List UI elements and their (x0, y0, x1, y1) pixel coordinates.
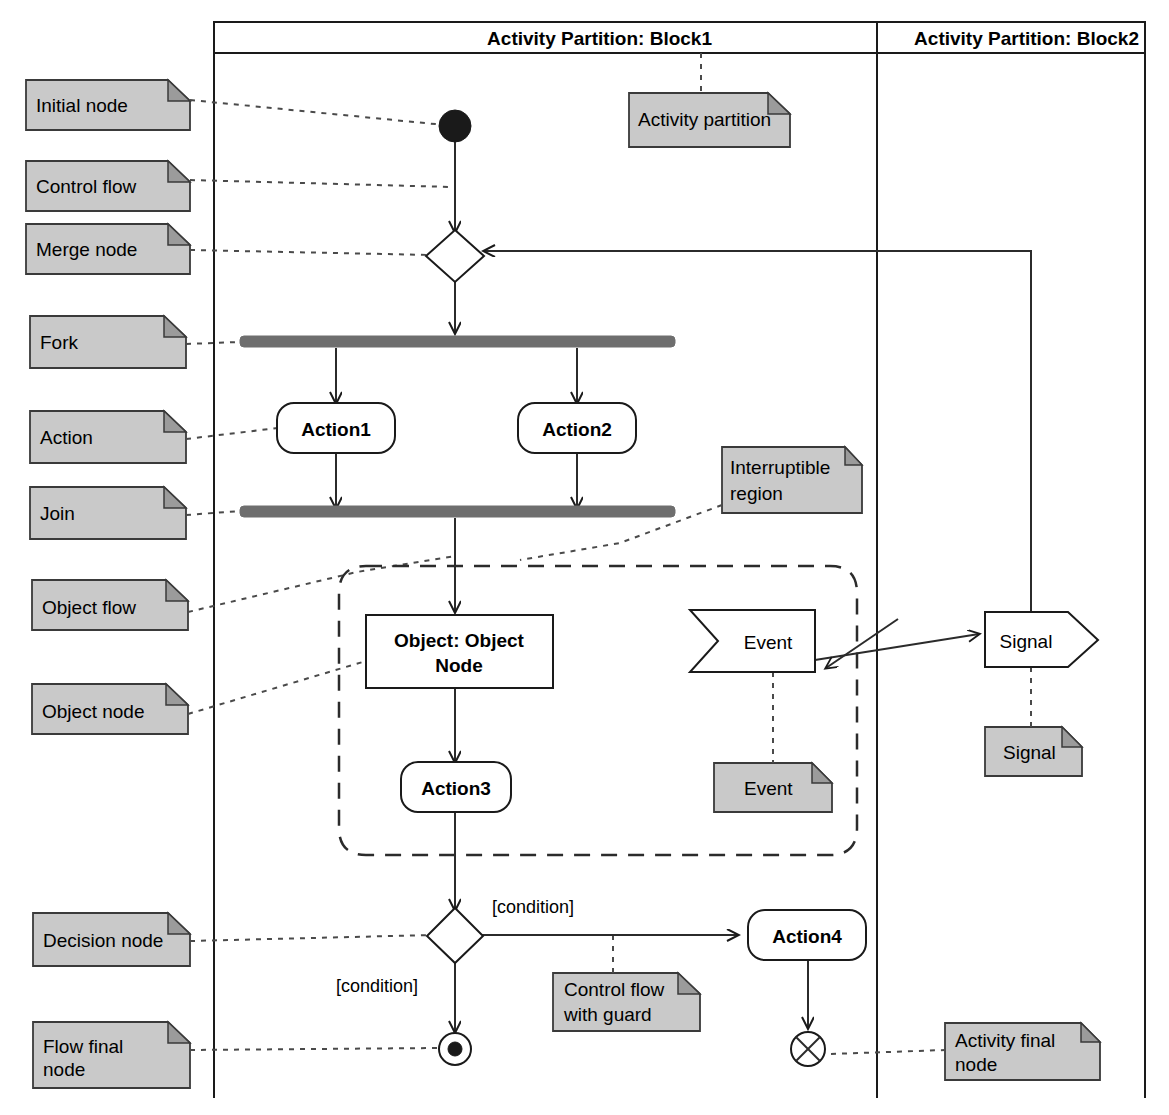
note-flow-final-node-label-line2: node (43, 1059, 85, 1080)
fork-bar[interactable] (240, 336, 675, 347)
guard-label-right: [condition] (492, 897, 574, 917)
note-control-flow-guard-line1: Control flow (564, 979, 665, 1000)
anchor-initial-node (190, 100, 455, 126)
note-merge-node-label: Merge node (36, 239, 137, 260)
action2-label: Action2 (542, 419, 612, 440)
note-interruptible-region-line2: region (730, 483, 783, 504)
action3-node[interactable]: Action3 (401, 762, 511, 812)
merge-node[interactable] (426, 230, 484, 282)
object-node-box (366, 615, 553, 688)
note-object-flow-fold (166, 580, 188, 601)
note-merge-node: Merge node (26, 224, 190, 274)
note-interruptible-region: Interruptible region (722, 447, 862, 513)
note-fork-fold (164, 316, 186, 337)
anchor-merge-node (190, 250, 432, 255)
note-event-fold (812, 763, 832, 783)
note-control-flow-with-guard-fold (678, 973, 700, 994)
join-bar[interactable] (240, 506, 675, 517)
note-activity-partition-fold (768, 93, 790, 114)
action4-label: Action4 (772, 926, 842, 947)
note-fork-label: Fork (40, 332, 79, 353)
flow-final-node[interactable] (439, 1033, 471, 1065)
note-interruptible-region-fold (845, 447, 862, 465)
note-object-flow: Object flow (32, 580, 188, 630)
note-control-flow: Control flow (26, 161, 190, 211)
action2-node[interactable]: Action2 (518, 403, 636, 453)
action3-label: Action3 (421, 778, 491, 799)
decision-node[interactable] (427, 908, 483, 963)
note-action-fold (164, 411, 186, 432)
note-signal: Signal (985, 727, 1082, 776)
note-signal-label: Signal (1003, 742, 1056, 763)
signal-node[interactable]: Signal (985, 612, 1098, 667)
initial-node[interactable] (439, 110, 471, 142)
note-control-flow-with-guard: Control flow with guard (553, 973, 700, 1031)
action1-label: Action1 (301, 419, 371, 440)
note-control-flow-label: Control flow (36, 176, 137, 197)
note-decision-node-fold (168, 913, 190, 934)
note-control-flow-fold (168, 161, 190, 182)
note-join-label: Join (40, 503, 75, 524)
flow-final-inner-dot (448, 1042, 462, 1056)
note-activity-partition-label: Activity partition (638, 109, 771, 130)
activity-final-node[interactable] (791, 1032, 825, 1066)
signal-node-label: Signal (1000, 631, 1053, 652)
guard-label-down: [condition] (336, 976, 418, 996)
note-flow-final-node: Flow final node (33, 1022, 190, 1088)
note-interruptible-region-line1: Interruptible (730, 457, 830, 478)
note-activity-final-node: Activity final node (945, 1023, 1100, 1080)
merge-node-diamond (426, 230, 484, 282)
note-join-fold (164, 487, 186, 508)
note-activity-final-node-fold (1081, 1023, 1100, 1042)
note-merge-node-fold (168, 224, 190, 245)
partition-title-block1: Activity Partition: Block1 (487, 28, 712, 49)
activity-diagram-canvas: Activity Partition: Block1 Activity Part… (0, 0, 1169, 1115)
note-activity-final-line1: Activity final (955, 1030, 1055, 1051)
object-node[interactable]: Object: Object Node (366, 615, 553, 688)
decision-node-diamond (427, 908, 483, 963)
anchor-activity-final-node (831, 1050, 945, 1054)
note-action: Action (30, 411, 186, 463)
edge-interrupting-zigzag (826, 619, 898, 668)
object-node-label-line2: Node (435, 655, 483, 676)
action1-node[interactable]: Action1 (277, 403, 395, 453)
partition-title-block2: Activity Partition: Block2 (914, 28, 1139, 49)
anchor-action (186, 428, 278, 439)
action4-node[interactable]: Action4 (748, 910, 866, 960)
note-control-flow-guard-line2: with guard (563, 1004, 652, 1025)
note-object-node-fold (166, 684, 188, 705)
note-activity-partition: Activity partition (629, 93, 790, 147)
note-fork: Fork (30, 316, 186, 368)
initial-node-dot (439, 110, 471, 142)
note-activity-final-line2: node (955, 1054, 997, 1075)
note-action-label: Action (40, 427, 93, 448)
note-object-node: Object node (32, 684, 188, 734)
note-initial-node: Initial node (26, 80, 190, 130)
note-initial-node-label: Initial node (36, 95, 128, 116)
uml-activity-diagram: Activity Partition: Block1 Activity Part… (0, 0, 1169, 1115)
note-event: Event (714, 763, 832, 812)
event-node[interactable]: Event (690, 610, 815, 672)
anchor-object-flow (188, 556, 455, 612)
note-flow-final-node-label-line1: Flow final (43, 1036, 123, 1057)
event-node-label: Event (744, 632, 793, 653)
object-node-label-line1: Object: Object (394, 630, 525, 651)
note-decision-node: Decision node (33, 913, 190, 966)
anchor-control-flow (190, 180, 452, 187)
note-join: Join (30, 487, 186, 539)
note-event-label: Event (744, 778, 793, 799)
note-flow-final-node-fold (168, 1022, 190, 1043)
note-initial-node-fold (168, 80, 190, 101)
note-object-flow-label: Object flow (42, 597, 136, 618)
note-object-node-label: Object node (42, 701, 144, 722)
note-decision-node-label: Decision node (43, 930, 163, 951)
activity-partition-frame: Activity Partition: Block1 Activity Part… (214, 22, 1145, 1098)
anchor-decision-node (190, 935, 432, 941)
edge-event-to-signal (815, 634, 979, 660)
anchor-flow-final-node (190, 1048, 437, 1050)
note-signal-fold (1062, 727, 1082, 747)
